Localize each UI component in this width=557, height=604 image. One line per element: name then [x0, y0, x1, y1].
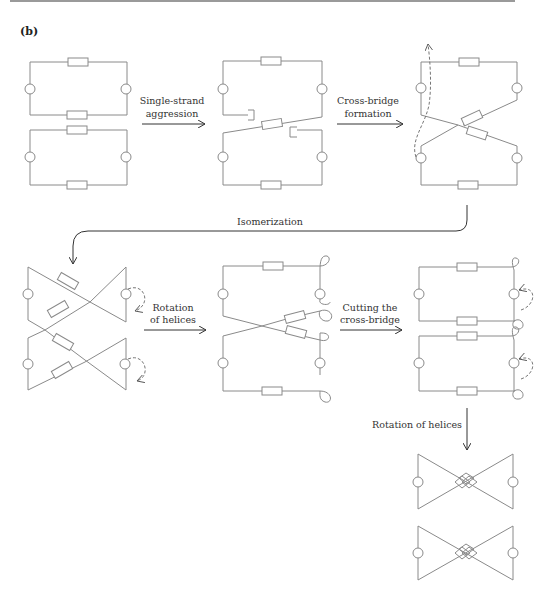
strand-end-circle: [218, 152, 228, 162]
strand-end-circle: [508, 548, 518, 558]
helix-segment: [457, 387, 477, 395]
strand-end-circle: [413, 548, 423, 558]
strand-end-circle: [121, 84, 131, 94]
helix-segment: [261, 118, 282, 129]
step-single-strand-aggression: Single-strand aggression: [140, 95, 205, 124]
stage-4-isomerized: [23, 267, 145, 390]
isomerization-arrow: [73, 205, 467, 264]
strand-end-circle: [512, 83, 522, 93]
duplex-bottom: [25, 126, 131, 189]
helix-segment: [261, 181, 281, 189]
strand-end-circle: [509, 289, 519, 299]
step-isomerization: Isomerization: [73, 205, 467, 264]
strand-end-circle: [416, 83, 426, 93]
duplex-top: [25, 58, 131, 119]
step-rotation-of-helices-2: Rotation of helices: [372, 408, 467, 450]
stage-7-final-bowties: [413, 454, 518, 580]
helix-segment: [57, 273, 78, 290]
helix-segment: [261, 57, 281, 65]
stage-1-separate-duplexes: [25, 58, 131, 189]
strand-end-circle: [25, 152, 35, 162]
helix-segment: [458, 181, 478, 189]
helix-segment: [68, 58, 88, 66]
step-label: formation: [344, 108, 391, 119]
strand-end-circle: [218, 289, 228, 299]
step-cross-bridge-formation: Cross-bridge formation: [337, 95, 403, 124]
strand-end-circle: [121, 289, 131, 299]
strand-end-circle: [23, 359, 33, 369]
helix-segment: [67, 181, 87, 189]
strand-end-circle: [120, 359, 130, 369]
helix-segment: [284, 311, 305, 324]
helix-segment: [51, 362, 72, 379]
step-label: Isomerization: [237, 216, 303, 227]
strand-end-circle: [317, 84, 327, 94]
rotation-dashed-arrow: [519, 289, 533, 310]
rotation-dashed-arrow: [415, 44, 431, 157]
helix-segment: [285, 326, 306, 339]
step-label: Rotation: [152, 302, 193, 313]
strand-end-circle: [413, 477, 423, 487]
step-cutting-cross-bridge: Cutting the cross-bridge: [340, 302, 402, 330]
step-label: aggression: [146, 108, 199, 119]
helix-segment: [457, 332, 477, 340]
helix-segment: [459, 58, 479, 66]
strand-end-circle: [508, 477, 518, 487]
strand-end-circle: [317, 152, 327, 162]
step-rotation-of-helices-1: Rotation of helices: [144, 302, 206, 330]
bowtie-top: [413, 454, 518, 509]
strand-end-circle: [315, 289, 325, 299]
helix-segment: [47, 301, 68, 318]
strand-end-circle: [121, 152, 131, 162]
stage-2-strand-invasion: [218, 57, 327, 189]
strand-end-circle: [218, 358, 228, 368]
recombination-diagram: Single-strand aggression Cross-bridge fo…: [0, 0, 557, 604]
step-label: Cutting the: [343, 302, 398, 313]
strand-end-circle: [414, 358, 424, 368]
strand-end-circle: [23, 289, 33, 299]
duplex-bottom: [414, 327, 533, 399]
stage-5-rotated: [218, 256, 332, 402]
bowtie-bottom: [413, 526, 518, 580]
rotation-dashed-arrow: [128, 358, 145, 381]
helix-segment: [262, 387, 282, 395]
step-label: cross-bridge: [340, 314, 400, 325]
step-label: Cross-bridge: [337, 95, 399, 106]
stage-3-cross-bridge: [415, 44, 522, 189]
stage-6-resolved-duplexes: [414, 258, 533, 399]
strand-end-circle: [315, 358, 325, 368]
helix-segment: [67, 111, 87, 119]
rotation-dashed-arrow: [519, 358, 533, 379]
helix-segment: [466, 126, 487, 140]
strand-end-circle: [512, 153, 522, 163]
strand-end-circle: [416, 153, 426, 163]
helix-segment: [263, 262, 283, 270]
helix-segment: [67, 126, 87, 134]
helix-segment: [457, 263, 477, 271]
duplex-top: [414, 258, 533, 329]
step-label: Single-strand: [140, 95, 205, 106]
step-label: Rotation of helices: [372, 419, 462, 430]
strand-end-circle: [218, 84, 228, 94]
step-label: of helices: [150, 314, 196, 325]
helix-segment: [461, 110, 483, 126]
strand-end-circle: [414, 289, 424, 299]
helix-segment: [52, 334, 73, 351]
strand-end-circle: [25, 84, 35, 94]
helix-segment: [457, 317, 477, 325]
strand-end-circle: [509, 358, 519, 368]
